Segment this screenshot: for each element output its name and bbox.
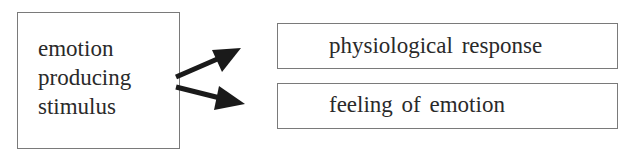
physiological-response-label: physiological response xyxy=(329,32,542,60)
arrow-to-physiological-response xyxy=(176,48,241,77)
feeling-of-emotion-box: feeling of emotion xyxy=(277,83,618,129)
physiological-response-box: physiological response xyxy=(277,23,618,69)
feeling-of-emotion-label: feeling of emotion xyxy=(329,91,505,119)
arrow-to-feeling-of-emotion xyxy=(176,86,245,110)
